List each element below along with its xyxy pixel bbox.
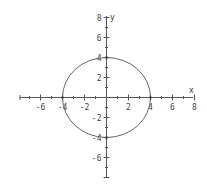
intercept-point bbox=[149, 96, 151, 98]
x-axis-label: x bbox=[189, 86, 194, 95]
y-tick-labels: 8642-2-4-6 bbox=[92, 14, 102, 163]
x-tick-label: 6 bbox=[170, 103, 175, 112]
intercept-point bbox=[105, 56, 107, 58]
x-tick-labels: -6-4-22468 bbox=[36, 103, 197, 112]
x-tick-label: -2 bbox=[80, 103, 90, 112]
y-tick-label: 2 bbox=[97, 74, 102, 83]
y-tick-label: 6 bbox=[97, 34, 102, 43]
y-tick-label: -4 bbox=[92, 134, 102, 143]
y-axis-label: y bbox=[110, 13, 115, 22]
y-tick-label: -6 bbox=[92, 154, 102, 163]
x-tick-label: -6 bbox=[36, 103, 46, 112]
circle-plot: -6-4-22468 8642-2-4-6 x y bbox=[0, 0, 207, 184]
y-tick-label: 8 bbox=[97, 14, 102, 23]
x-tick-label: 2 bbox=[126, 103, 131, 112]
x-tick-label: 8 bbox=[192, 103, 197, 112]
y-tick-label: -2 bbox=[92, 114, 102, 123]
intercept-point bbox=[105, 136, 107, 138]
intercept-point bbox=[61, 96, 63, 98]
